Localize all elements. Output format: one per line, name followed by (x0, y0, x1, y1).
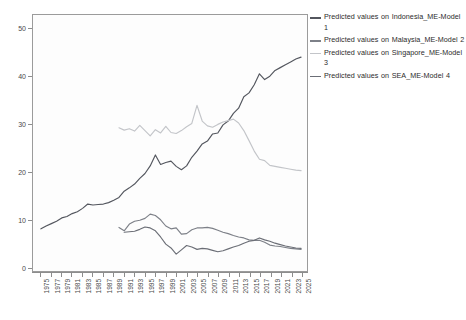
x-axis-tick (250, 272, 251, 277)
series-line-2 (119, 214, 301, 249)
legend-item-4[interactable]: Predicted values on SEA_ME-Model 4 (310, 71, 466, 82)
x-axis-label: 1997 (158, 279, 165, 293)
x-axis-label: 2009 (221, 279, 228, 293)
x-axis-tick (51, 272, 52, 277)
x-axis-label: 2007 (211, 279, 218, 293)
legend-item-3[interactable]: Predicted values on Singapore_ME-Model 3 (310, 48, 466, 69)
x-axis-label: 2017 (263, 279, 270, 293)
legend-line-swatch-icon (310, 17, 321, 19)
x-axis-label: 1993 (137, 279, 144, 293)
x-axis-tick (302, 272, 303, 277)
chart-page: 01020304050 1975197719791981198319851987… (0, 0, 466, 320)
x-axis-tick (103, 272, 104, 277)
x-axis-tick (281, 272, 282, 277)
x-axis-tick (82, 272, 83, 277)
series-canvas (33, 15, 307, 271)
x-axis-label: 1995 (148, 279, 155, 293)
series-line-1 (41, 57, 301, 229)
x-axis-label: 1983 (85, 279, 92, 293)
y-axis-label: 20 (18, 168, 26, 175)
plot-area (32, 14, 308, 272)
x-axis-tick (40, 272, 41, 277)
x-axis-label: 1985 (95, 279, 102, 293)
legend-item-label: Predicted values on Indonesia_ME-Model 1 (324, 12, 466, 33)
plot-inner (33, 15, 307, 271)
x-axis-tick (166, 272, 167, 277)
x-axis-tick (71, 272, 72, 277)
y-axis-label: 0 (22, 265, 26, 272)
x-axis-label: 1991 (127, 279, 134, 293)
chart-legend: Predicted values on Indonesia_ME-Model 1… (310, 12, 466, 83)
x-axis-tick (187, 272, 188, 277)
x-axis-tick (176, 272, 177, 277)
x-axis-label: 1987 (106, 279, 113, 293)
x-axis-label: 2021 (284, 279, 291, 293)
x-axis-tick (61, 272, 62, 277)
y-axis-label: 30 (18, 120, 26, 127)
x-axis-label: 2001 (179, 279, 186, 293)
y-axis-label: 10 (18, 216, 26, 223)
legend-item-label: Predicted values on Singapore_ME-Model 3 (324, 48, 466, 69)
x-axis-tick (271, 272, 272, 277)
x-axis-label: 2011 (232, 279, 239, 293)
legend-item-2[interactable]: Predicted values on Malaysia_ME-Model 2 (310, 35, 466, 46)
x-axis-label: 1989 (116, 279, 123, 293)
legend-line-swatch-icon (310, 76, 321, 78)
x-axis-tick (229, 272, 230, 277)
x-axis-label: 2023 (295, 279, 302, 293)
legend-item-1[interactable]: Predicted values on Indonesia_ME-Model 1 (310, 12, 466, 33)
x-axis-line (32, 272, 308, 273)
x-axis-label: 2013 (242, 279, 249, 293)
legend-item-label: Predicted values on Malaysia_ME-Model 2 (324, 35, 464, 46)
x-axis-label: 2025 (305, 279, 312, 293)
x-axis-tick (145, 272, 146, 277)
x-axis-tick (113, 272, 114, 277)
x-axis-tick (260, 272, 261, 277)
x-axis-tick (208, 272, 209, 277)
x-axis-label: 2003 (190, 279, 197, 293)
x-axis-label: 2019 (274, 279, 281, 293)
x-axis-tick (197, 272, 198, 277)
legend-line-swatch-icon (310, 53, 321, 55)
x-axis-tick (124, 272, 125, 277)
legend-item-label: Predicted values on SEA_ME-Model 4 (324, 71, 450, 82)
x-axis-label: 1981 (74, 279, 81, 293)
y-axis-label: 50 (18, 24, 26, 31)
x-axis-label: 2015 (253, 279, 260, 293)
x-axis-tick (92, 272, 93, 277)
x-axis-label: 1975 (43, 279, 50, 293)
x-axis-tick (239, 272, 240, 277)
x-axis-label: 2005 (200, 279, 207, 293)
x-axis-tick (292, 272, 293, 277)
x-axis-label: 1999 (169, 279, 176, 293)
x-axis: 1975197719791981198319851987198919911993… (32, 272, 308, 320)
x-axis-tick (155, 272, 156, 277)
x-axis-label: 1979 (64, 279, 71, 293)
x-axis-label: 1977 (54, 279, 61, 293)
legend-line-swatch-icon (310, 40, 321, 42)
y-axis-label: 40 (18, 72, 26, 79)
x-axis-tick (218, 272, 219, 277)
x-axis-tick (134, 272, 135, 277)
series-line-4 (124, 227, 301, 254)
